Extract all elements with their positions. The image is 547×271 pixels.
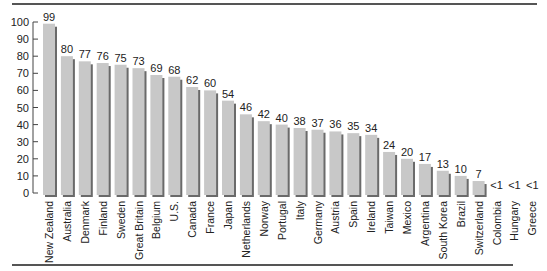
- x-category-label: South Korea: [437, 201, 449, 260]
- bar: 73: [132, 55, 146, 197]
- x-category-label: Sweden: [115, 201, 127, 239]
- y-tick-label: 50: [17, 102, 29, 114]
- x-category-label: Netherlands: [240, 201, 252, 258]
- bar-chart: 0102030405060708090100 99807776757369686…: [0, 0, 547, 271]
- x-category-label: Colombia: [491, 201, 503, 246]
- bar-value-label: 7: [476, 168, 482, 180]
- y-tick-label: 40: [17, 119, 29, 131]
- bar-value-label: 99: [43, 11, 55, 23]
- bar-value-label: 20: [401, 146, 413, 158]
- x-category-label: Canada: [186, 201, 198, 238]
- bar-value-label: 73: [132, 55, 144, 67]
- bar: 42: [258, 108, 272, 197]
- bar: 36: [329, 118, 343, 197]
- y-tick-label: 90: [17, 33, 29, 45]
- x-category-label: France: [204, 201, 216, 234]
- bar: 35: [347, 120, 361, 197]
- bar: 17: [419, 151, 433, 197]
- x-category-label: Germany: [312, 200, 324, 244]
- bar-value-label: 13: [437, 158, 449, 170]
- bar: <1: [508, 179, 521, 191]
- bar-value-label: 76: [97, 50, 109, 62]
- bar-value-label: 36: [329, 118, 341, 130]
- x-category-label: Belgium: [150, 201, 162, 239]
- bar-value-label: 77: [79, 48, 91, 60]
- x-category-label: Hungary: [508, 200, 520, 240]
- bar-value-label: <1: [508, 179, 521, 191]
- bar: 80: [61, 43, 75, 197]
- y-tick-label: 80: [17, 50, 29, 62]
- x-category-label: Spain: [347, 201, 359, 228]
- y-tick-label: 30: [17, 136, 29, 148]
- bar: 20: [401, 146, 415, 197]
- bar: <1: [526, 179, 539, 191]
- bar: 7: [473, 168, 487, 197]
- bar-value-label: 60: [204, 77, 216, 89]
- x-category-label: Greece: [526, 201, 538, 236]
- x-category-label: Portugal: [276, 201, 288, 240]
- bar: 77: [79, 48, 93, 197]
- x-category-label: Argentina: [419, 201, 431, 246]
- x-category-label: New Zealand: [43, 201, 55, 263]
- x-category-label: Italy: [294, 200, 306, 220]
- x-category-label: Austria: [329, 201, 341, 234]
- x-category-label: Great Britain: [133, 201, 145, 260]
- bar-value-label: 34: [365, 122, 377, 134]
- bar-value-label: 42: [258, 108, 270, 120]
- bar-value-label: <1: [526, 179, 539, 191]
- bar: 54: [222, 88, 236, 197]
- bars: 9980777675736968626054464240383736353424…: [43, 11, 539, 197]
- bar-value-label: 10: [455, 163, 467, 175]
- bar-value-label: 38: [293, 115, 305, 127]
- x-category-label: Mexico: [401, 201, 413, 234]
- bar-value-label: 62: [186, 74, 198, 86]
- bar: 46: [240, 101, 254, 197]
- bar-value-label: 75: [114, 52, 126, 64]
- bar: 76: [97, 50, 111, 197]
- bar-value-label: 37: [311, 117, 323, 129]
- x-category-label: U.S.: [168, 201, 180, 221]
- x-axis-labels: New ZealandAustraliaDenmarkFinlandSweden…: [43, 200, 538, 263]
- x-category-label: Brazil: [455, 201, 467, 227]
- bar: 68: [168, 64, 182, 197]
- bar: 99: [43, 11, 57, 197]
- bar: 13: [437, 158, 451, 197]
- y-tick-label: 60: [17, 84, 29, 96]
- bar-value-label: 46: [240, 101, 252, 113]
- bar: 34: [365, 122, 379, 197]
- bar: <1: [490, 179, 503, 191]
- bar: 40: [276, 112, 290, 197]
- y-tick-label: 70: [17, 67, 29, 79]
- bar-value-label: 24: [383, 139, 395, 151]
- bar-value-label: 35: [347, 120, 359, 132]
- bar: 38: [293, 115, 307, 197]
- bar: 62: [186, 74, 200, 197]
- x-category-label: Finland: [97, 201, 109, 236]
- bar-value-label: 54: [222, 88, 234, 100]
- bar: 75: [114, 52, 128, 197]
- bar: 69: [150, 62, 164, 197]
- bar: 24: [383, 139, 397, 197]
- y-tick-label: 10: [17, 170, 29, 182]
- x-category-label: Ireland: [365, 201, 377, 233]
- bottom-rule: [12, 264, 513, 266]
- x-category-label: Japan: [222, 201, 234, 230]
- bar: 60: [204, 77, 218, 197]
- bar-value-label: <1: [490, 179, 503, 191]
- bar-value-label: 69: [150, 62, 162, 74]
- bar-value-label: 80: [61, 43, 73, 55]
- bar-value-label: 68: [168, 64, 180, 76]
- bar: 10: [455, 163, 469, 197]
- x-category-label: Australia: [61, 201, 73, 242]
- y-tick-label: 100: [11, 16, 29, 28]
- x-category-label: Denmark: [79, 200, 91, 243]
- x-category-label: Norway: [258, 200, 270, 236]
- bar: 37: [311, 117, 325, 197]
- x-category-label: Taiwan: [383, 201, 395, 234]
- bar-value-label: 17: [419, 151, 431, 163]
- bar-value-label: 40: [276, 112, 288, 124]
- y-axis: 0102030405060708090100: [11, 16, 38, 199]
- x-category-label: Switzerland: [473, 201, 485, 255]
- y-tick-label: 20: [17, 153, 29, 165]
- y-tick-label: 0: [23, 187, 29, 199]
